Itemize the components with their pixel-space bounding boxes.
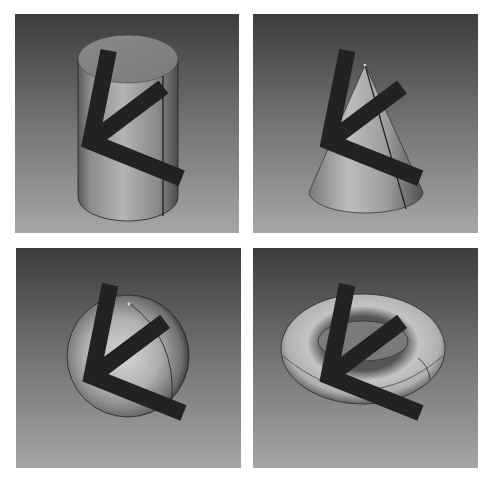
axis-triad-icon [15,14,239,233]
viewport-sphere[interactable]: Sphere [16,248,241,468]
axis-triad-icon [253,248,478,468]
axis-triad-icon [253,14,478,233]
viewport-cone[interactable]: Cone [253,14,478,233]
viewport-cylinder[interactable]: Cylinder [15,14,239,233]
viewport-torus[interactable]: Torus [253,248,478,468]
axis-triad-icon [16,248,241,468]
